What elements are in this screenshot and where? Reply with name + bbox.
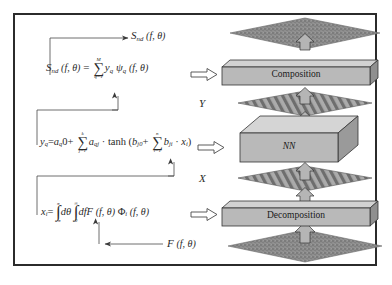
eq1-summation: M ∑ q=1	[93, 57, 104, 79]
connector-input-to-decomposition	[99, 222, 163, 244]
eq3-spec-args: (f, θ)	[96, 206, 115, 217]
eq3-basis-args: (f, θ)	[130, 206, 149, 217]
eq1-equals: =	[83, 61, 89, 73]
eq2-close-paren: )	[188, 136, 192, 147]
nn-block[interactable]	[240, 116, 358, 162]
eq-decomposition: xi= π ∫ -π dθ ∞ ∫ 0 dfF (f, θ) Φi (f, θ)	[41, 201, 149, 223]
eq1-sum-lower: q=1	[93, 74, 104, 79]
eq2-inner-weight-subscript: ji	[169, 140, 173, 147]
figure-root: Snd (f, θ) Snd (f, θ) = M ∑ q=1 yq ψq (f…	[0, 0, 392, 285]
bottom-input-args: (f, θ)	[176, 238, 195, 249]
eq1-lhs-subscript: nd	[52, 67, 59, 74]
top-output-label: Snd (f, θ)	[131, 30, 165, 43]
eq3-int2-symbol: ∫	[74, 206, 79, 218]
eq2-summation-inner: n ∑ i=1	[152, 131, 163, 153]
eq1-term-args: (f, θ)	[129, 62, 148, 73]
eq1-term-b-subscript: q	[123, 67, 126, 74]
eq3-equals: =	[47, 206, 53, 217]
pointer-arrow-composition	[191, 69, 217, 81]
y-plane-label: Y	[199, 98, 205, 109]
eq2-plus: +	[68, 136, 74, 147]
eq3-integral-f: ∞ ∫ 0	[74, 201, 79, 223]
eq2-sum-symbol: ∑	[77, 136, 88, 148]
eq3-basis-subscript: i	[125, 210, 127, 217]
eq2-inner-plus: +	[142, 136, 148, 147]
eq2-inner-dot: ·	[175, 136, 179, 147]
composition-block-label[interactable]: Composition	[222, 70, 370, 80]
eq2-dot: ·	[102, 136, 106, 147]
nn-block-label[interactable]: NN	[240, 142, 338, 152]
bottom-input-label: F (f, θ)	[167, 238, 196, 249]
eq2-weight-subscript: qj	[94, 140, 99, 147]
x-plane-label: X	[199, 173, 206, 184]
eq1-sum-symbol: ∑	[93, 62, 104, 74]
eq3-int1-lower: -π	[56, 218, 61, 223]
eq2-inner-sum-symbol: ∑	[152, 136, 163, 148]
eq-composition: Snd (f, θ) = M ∑ q=1 yq ψq (f, θ)	[46, 57, 148, 79]
eq1-term-b: ψ	[116, 61, 123, 73]
pointer-arrow-decomposition	[191, 209, 217, 221]
eq2-summation-outer: k ∑ j=1	[77, 131, 88, 153]
eq1-lhs-args: (f, θ)	[61, 62, 80, 73]
eq-network: yq=aq0+ k ∑ j=1 aqj · tanh (bj0+ n ∑ i=1…	[40, 131, 191, 153]
eq2-activation: tanh	[108, 136, 126, 147]
eq3-dtheta: dθ	[61, 206, 71, 217]
eq3-df: df	[78, 206, 86, 217]
top-output-args: (f, θ)	[146, 30, 165, 41]
bottom-input-symbol: F	[167, 237, 174, 249]
eq3-spec-symbol: F	[87, 206, 93, 217]
pointer-arrow-nn	[198, 142, 224, 154]
decomposition-block-label[interactable]: Decomposition	[222, 211, 370, 221]
eq1-term-a-subscript: q	[110, 67, 113, 74]
top-output-subscript: nd	[137, 35, 144, 42]
eq3-integral-theta: π ∫ -π	[56, 201, 61, 223]
eq3-int1-symbol: ∫	[56, 206, 61, 218]
